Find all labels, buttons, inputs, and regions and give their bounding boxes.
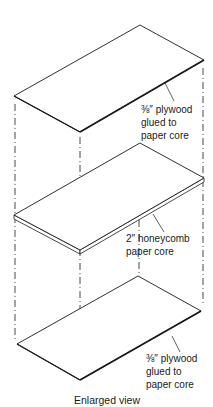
bottom-plywood-panel — [17, 276, 201, 380]
leader-line — [165, 83, 174, 101]
leader-line — [172, 336, 180, 352]
exploded-panel-diagram: ⅜″ plywood glued to paper core 2″ honeyc… — [0, 0, 213, 407]
top-panel-label: ⅜″ plywood glued to paper core — [141, 104, 195, 141]
figure-caption: Enlarged view — [74, 394, 140, 406]
top-plywood-panel — [14, 25, 204, 132]
bottom-panel-label: ⅜″ plywood glued to paper core — [146, 353, 200, 390]
middle-panel-label: 2″ honeycomb paper core — [126, 233, 192, 257]
leader-line — [153, 214, 164, 232]
